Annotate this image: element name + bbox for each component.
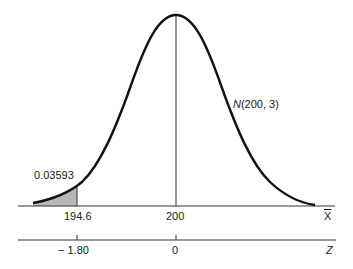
z-tick-label-0: 0 bbox=[172, 244, 178, 256]
normal-curve-plot bbox=[0, 0, 353, 269]
xbar-tick-label-200: 200 bbox=[166, 210, 184, 222]
tail-area-label: 0.03593 bbox=[34, 169, 74, 181]
distribution-label: N(200, 3) bbox=[233, 98, 279, 110]
z-tick-label-neg180: − 1.80 bbox=[58, 244, 89, 256]
normal-curve bbox=[33, 15, 315, 205]
xbar-tick-label-194: 194.6 bbox=[64, 210, 92, 222]
xbar-axis-label: X bbox=[324, 210, 331, 222]
z-axis-label: Z bbox=[326, 244, 333, 256]
